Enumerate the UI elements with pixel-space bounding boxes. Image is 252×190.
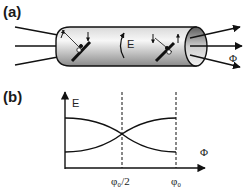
- panel-b: (b) E Φ φ₀/2 φ₀: [3, 88, 208, 187]
- energy-curve-lower: [65, 134, 176, 152]
- figure: (a) Φ E: [0, 0, 252, 190]
- panel-b-label: (b): [3, 88, 22, 105]
- y-axis-label: E: [72, 97, 79, 109]
- cylinder-tube: [56, 27, 196, 66]
- tick-label-full-flux: φ₀: [171, 175, 181, 187]
- field-label: E: [127, 38, 134, 50]
- panel-a-label: (a): [3, 3, 21, 20]
- panel-a: (a) Φ E: [3, 3, 242, 67]
- energy-curve-upper: [65, 118, 176, 134]
- x-axis-label: Φ: [200, 146, 208, 158]
- flux-label: Φ: [229, 52, 237, 64]
- tick-label-half-flux: φ₀/2: [111, 175, 130, 187]
- incoming-rays: [15, 27, 58, 65]
